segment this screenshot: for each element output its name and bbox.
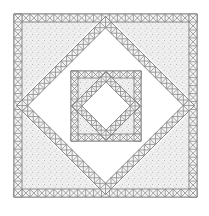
quilt-block-figure (0, 0, 209, 216)
quilt-pattern-graphic (0, 0, 209, 216)
